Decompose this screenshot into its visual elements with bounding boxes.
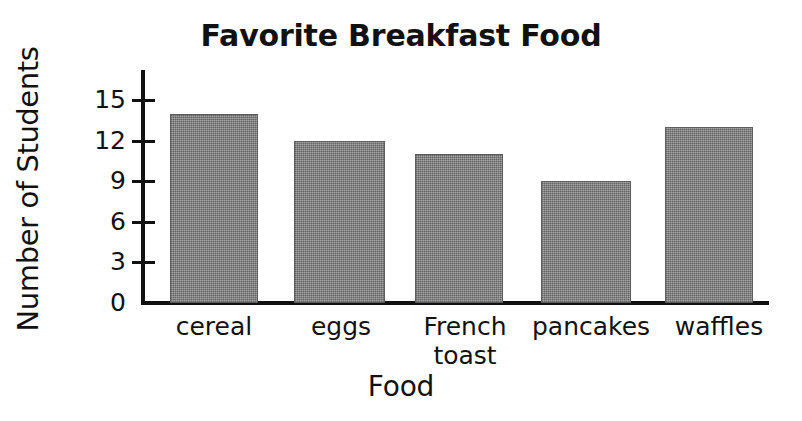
- bar-eggs: [294, 141, 385, 303]
- y-axis-tick-mark: [132, 140, 155, 143]
- y-axis-tick-mark: [132, 261, 155, 264]
- y-axis-tick-mark: [132, 221, 155, 224]
- x-axis-label-line: French: [392, 312, 538, 341]
- x-axis-label-line: toast: [392, 341, 538, 370]
- bar-waffles: [665, 127, 753, 303]
- x-axis-label-line: pancakes: [518, 312, 664, 341]
- y-axis-tick-label: 12: [82, 128, 126, 153]
- x-axis-title: Food: [0, 370, 802, 403]
- y-axis-line: [141, 70, 145, 305]
- plot-area: 15129630 cerealeggsFrenchtoastpancakeswa…: [0, 0, 802, 421]
- y-axis-tick-label: 3: [82, 249, 126, 274]
- x-axis-label-line: cereal: [141, 312, 287, 341]
- y-axis-tick-label: 6: [82, 209, 126, 234]
- bar-chart-figure: Favorite Breakfast Food Number of Studen…: [0, 0, 802, 421]
- y-axis-tick-label: 9: [82, 168, 126, 193]
- x-axis-label-pancakes: pancakes: [518, 312, 664, 341]
- x-axis-label-waffles: waffles: [646, 312, 792, 341]
- bar-cereal: [170, 114, 258, 303]
- bar-pancakes: [541, 181, 631, 303]
- y-axis-tick-mark: [132, 180, 155, 183]
- y-axis-tick-label: 15: [82, 87, 126, 112]
- x-axis-label-line: waffles: [646, 312, 792, 341]
- bar-french-toast: [415, 154, 503, 303]
- x-axis-label-french-toast: Frenchtoast: [392, 312, 538, 370]
- y-axis-tick-label: 0: [82, 290, 126, 315]
- y-axis-tick-mark: [132, 99, 155, 102]
- x-axis-label-cereal: cereal: [141, 312, 287, 341]
